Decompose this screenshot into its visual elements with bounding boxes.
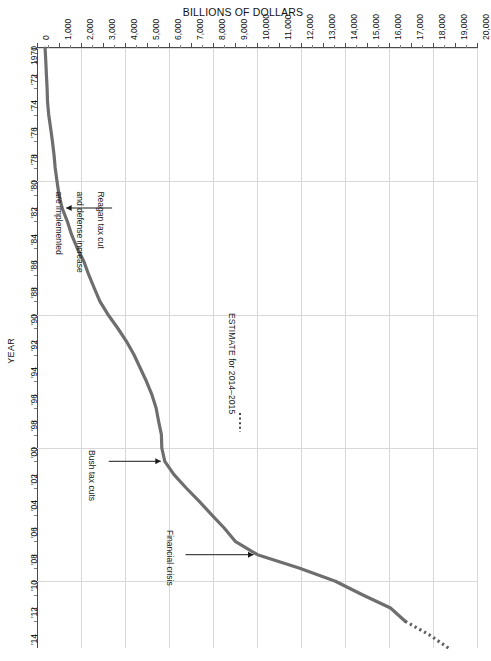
annotation-financial-crisis: Financial crisis: [165, 530, 176, 586]
value-tick-label: 4,000: [129, 19, 139, 40]
value-tick-label: 7,000: [195, 19, 205, 40]
year-tick-label: '00: [29, 447, 39, 458]
annotation-reagan-line2: and defense increase: [76, 191, 86, 272]
annotation-bush: Bush tax cuts: [87, 450, 98, 501]
year-tick-label: '78: [29, 154, 39, 165]
year-tick-label: '76: [29, 127, 39, 138]
year-tick-label: '74: [29, 100, 39, 111]
year-tick-label: '88: [29, 287, 39, 298]
year-tick-label: '98: [29, 420, 39, 431]
value-tick-label: 8,000: [217, 19, 227, 40]
value-tick-label: 10,000: [261, 14, 271, 40]
year-tick-label: '06: [29, 527, 39, 538]
year-tick-label: '04: [29, 500, 39, 511]
year-tick-label: '02: [29, 474, 39, 485]
year-tick-label: '90: [29, 314, 39, 325]
value-tick-label: 9,000: [239, 19, 249, 40]
year-tick-label: '12: [29, 607, 39, 618]
value-tick-label: 3,000: [107, 19, 117, 40]
estimate-label: ESTIMATE for 2014–2015: [227, 313, 237, 414]
value-tick-label: 13,000: [327, 14, 337, 40]
value-tick-label: 20,000: [481, 14, 491, 40]
year-tick-label: '94: [29, 367, 39, 378]
annotation-reagan: Reagan tax cut and defense increase are …: [44, 182, 118, 273]
debt-line-estimate-segment: [405, 621, 448, 648]
value-tick-label: 12,000: [305, 14, 315, 40]
annotation-reagan-line1: Reagan tax cut: [97, 191, 107, 248]
year-tick-label: '14: [29, 634, 39, 645]
annotation-reagan-line3: are implemented: [55, 191, 65, 254]
value-tick-label: 6,000: [173, 19, 183, 40]
value-tick-label: 5,000: [151, 19, 161, 40]
value-tick-label: 15,000: [371, 14, 381, 40]
value-tick-label: 11,000: [283, 15, 293, 40]
value-tick-label: 1,000: [63, 19, 73, 40]
year-tick-label: '84: [29, 234, 39, 245]
value-tick-label: 16,000: [393, 14, 403, 40]
value-tick-label: 0: [41, 35, 51, 40]
debt-line-series: [45, 48, 405, 621]
year-tick-label: '92: [29, 340, 39, 351]
year-tick-label: '80: [29, 180, 39, 191]
year-tick-label: 1970: [29, 46, 39, 65]
year-tick-label: '82: [29, 207, 39, 218]
value-tick-label: 19,000: [459, 14, 469, 40]
year-tick-label: '96: [29, 394, 39, 405]
value-tick-label: 14,000: [349, 14, 359, 40]
year-tick-label: '10: [29, 580, 39, 591]
value-tick-label: 17,000: [415, 14, 425, 40]
value-tick-label: 2,000: [85, 19, 95, 40]
year-tick-label: '72: [29, 74, 39, 85]
year-tick-label: '86: [29, 260, 39, 271]
year-tick-label: '08: [29, 554, 39, 565]
value-tick-label: 18,000: [437, 14, 447, 40]
